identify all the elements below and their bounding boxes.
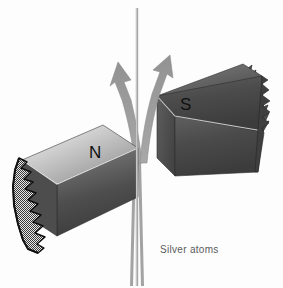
north-pole-label: N — [89, 143, 101, 162]
beam-axis-line-front — [137, 8, 138, 286]
south-pole-label: S — [180, 95, 191, 114]
silver-atoms-caption: Silver atoms — [160, 244, 219, 255]
figure-canvas: S N — [0, 0, 283, 288]
stern-gerlach-figure: S N — [0, 0, 283, 288]
